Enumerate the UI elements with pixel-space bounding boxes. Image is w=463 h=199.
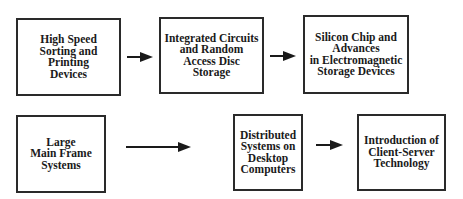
- arrow-head-icon: [140, 52, 153, 62]
- box-distributed-systems: Distributed Systems on Desktop Computers: [233, 114, 303, 191]
- box-label: Large Main Frame Systems: [30, 137, 92, 172]
- arrow-head-icon: [178, 142, 191, 152]
- box-large-main-frame: Large Main Frame Systems: [16, 115, 106, 193]
- arrow-shaft: [126, 146, 179, 148]
- arrow-head-icon: [330, 140, 343, 150]
- box-label: Distributed Systems on Desktop Computers: [240, 130, 296, 176]
- box-high-speed-sorting: High Speed Sorting and Printing Devices: [16, 18, 121, 96]
- arrow-shaft: [127, 56, 141, 58]
- arrow-2-to-3: [270, 51, 296, 61]
- box-label: Integrated Circuits and Random Access Di…: [164, 33, 258, 79]
- arrow-shaft: [270, 55, 284, 57]
- arrow-shaft: [316, 144, 331, 146]
- box-label: Silicon Chip and Advances in Electromagn…: [310, 32, 403, 78]
- arrow-5-to-6: [316, 140, 343, 150]
- arrow-head-icon: [283, 51, 296, 61]
- arrow-1-to-2: [127, 52, 153, 62]
- arrow-4-to-5: [126, 142, 191, 152]
- box-client-server: Introduction of Client-Server Technology: [357, 114, 446, 191]
- box-silicon-chip: Silicon Chip and Advances in Electromagn…: [303, 15, 409, 94]
- box-label: Introduction of Client-Server Technology: [364, 135, 439, 170]
- box-label: High Speed Sorting and Printing Devices: [40, 34, 98, 80]
- box-integrated-circuits: Integrated Circuits and Random Access Di…: [159, 17, 264, 94]
